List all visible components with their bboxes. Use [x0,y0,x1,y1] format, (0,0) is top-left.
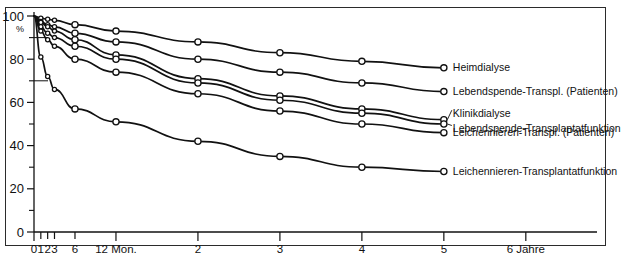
data-point-marker [113,28,119,34]
data-point-marker [52,36,56,40]
series-line [34,16,444,124]
x-tick-label: 3 [51,243,57,255]
data-point-marker [46,74,50,78]
data-point-marker [72,106,78,112]
y-tick-label: 40 [10,138,24,153]
y-tick-label: 0 [17,225,24,240]
legend-leader-line [447,110,452,120]
data-point-marker [441,89,447,95]
data-point-marker [72,56,78,62]
data-point-marker [39,29,43,33]
y-tick-label: 100 [2,9,24,24]
legend-leader-line [447,124,452,126]
legend-label-2: Klinikdialyse [453,107,511,119]
y-tick-label: 80 [10,52,24,67]
data-point-marker [46,17,50,21]
data-point-marker [72,30,78,36]
data-point-marker [52,25,56,29]
legend-label-1: Lebendspende-Transpl. (Patienten) [453,85,618,97]
series-2 [34,16,447,123]
x-tick-label: 3 [277,243,283,255]
data-point-marker [72,43,78,49]
data-point-marker [441,168,447,174]
x-tick-label: 1 [38,243,44,255]
data-point-marker [39,55,43,59]
x-tick-label: 4 [359,243,366,255]
series-line [34,16,444,172]
series-5 [34,16,447,175]
data-point-marker [52,29,56,33]
data-point-marker [72,37,78,43]
data-point-marker [277,69,283,75]
y-axis-unit-label: % [16,24,24,34]
y-tick-label: 20 [10,181,24,196]
data-point-marker [113,39,119,45]
data-point-marker [359,58,365,64]
data-point-marker [277,50,283,56]
data-point-marker [52,44,56,48]
x-tick-label: 6 Jahre [507,243,545,255]
data-point-marker [195,80,201,86]
data-point-marker [359,164,365,170]
data-point-marker [359,121,365,127]
data-point-marker [39,20,43,24]
x-tick-label: 2 [195,243,201,255]
data-point-marker [277,97,283,103]
x-tick-label: 0 [31,243,37,255]
data-point-marker [277,108,283,114]
data-point-marker [195,91,201,97]
data-point-marker [441,65,447,71]
legend-label-4: Leichennieren-Transpl. (Patienten) [453,126,614,138]
data-point-marker [46,31,50,35]
chart-page: 020406080100%0123612 Mon.23456 JahreHeim… [0,0,623,265]
legend-label-0: Heimdialyse [453,61,510,73]
data-point-marker [52,18,56,22]
legend-label-5: Leichennieren-Transplantatfunktion [453,165,617,177]
data-point-marker [113,119,119,125]
series-0 [34,16,447,71]
survival-curves-plot: 020406080100%0123612 Mon.23456 JahreHeim… [0,0,623,265]
series-line [34,16,444,120]
x-tick-label: 12 Mon. [95,243,137,255]
data-point-marker [441,121,447,127]
data-point-marker [359,80,365,86]
y-tick-label: 60 [10,95,24,110]
data-point-marker [359,110,365,116]
data-point-marker [195,39,201,45]
data-point-marker [46,38,50,42]
x-tick-label: 6 [72,243,78,255]
data-point-marker [72,22,78,28]
series-line [34,16,444,68]
data-point-marker [277,153,283,159]
data-point-marker [195,56,201,62]
data-point-marker [52,87,56,91]
data-point-marker [113,56,119,62]
data-point-marker [46,25,50,29]
x-tick-label: 5 [441,243,447,255]
data-point-marker [441,130,447,136]
x-tick-label: 2 [44,243,50,255]
series-4 [34,16,447,136]
data-point-marker [195,138,201,144]
data-point-marker [113,69,119,75]
